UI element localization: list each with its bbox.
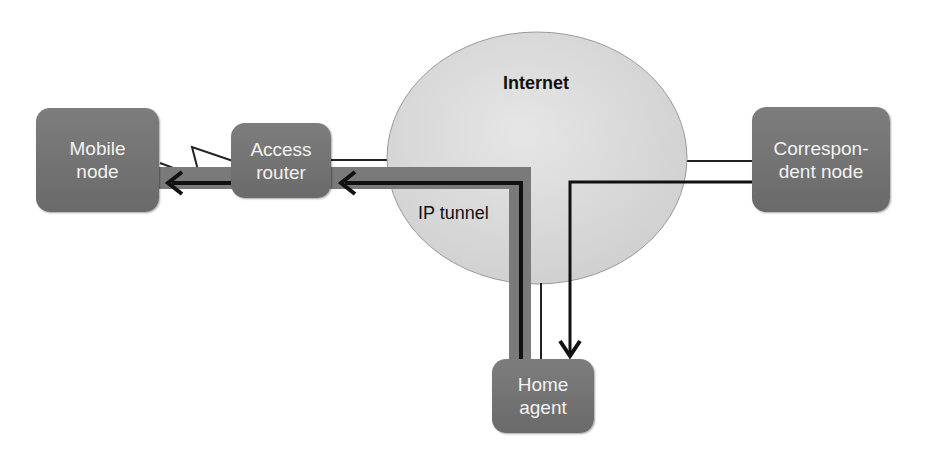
correspondent-node: Correspon- dent node xyxy=(752,107,890,212)
mobile-node: Mobile node xyxy=(36,108,159,212)
internet-label: Internet xyxy=(503,73,569,94)
ip-tunnel-label: IP tunnel xyxy=(418,203,489,224)
access-router: Access router xyxy=(231,123,331,198)
diagram-canvas xyxy=(0,0,929,457)
internet-cloud xyxy=(387,32,687,284)
home-agent: Home agent xyxy=(492,359,594,433)
